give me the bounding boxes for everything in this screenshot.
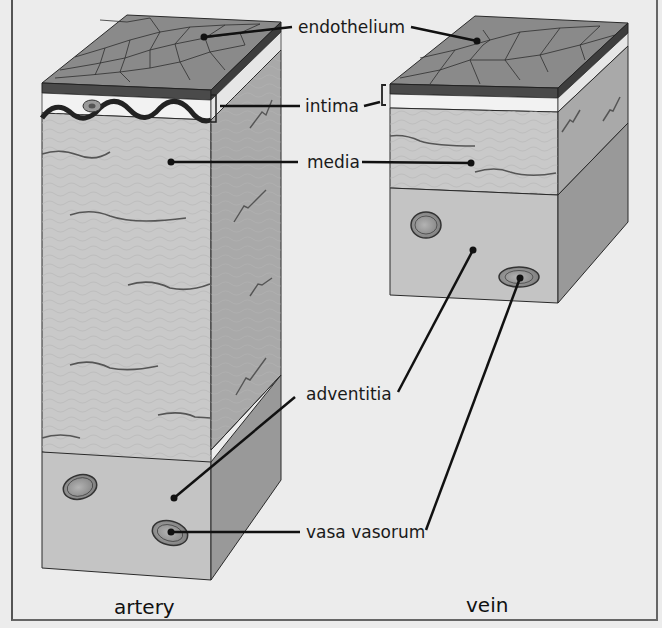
vessel-wall-diagram: endothelium intima media adventitia vasa… — [0, 0, 662, 628]
label-endothelium: endothelium — [298, 17, 405, 37]
label-vasa-vasorum: vasa vasorum — [306, 522, 425, 542]
vein-block — [382, 16, 628, 303]
artery-block — [42, 15, 281, 580]
label-media: media — [307, 152, 360, 172]
artery-adventitia-front — [42, 452, 211, 580]
vein-adventitia-front — [390, 188, 558, 303]
caption-artery: artery — [114, 595, 175, 619]
label-intima: intima — [305, 96, 359, 116]
caption-vein: vein — [466, 593, 508, 617]
label-adventitia: adventitia — [306, 384, 392, 404]
